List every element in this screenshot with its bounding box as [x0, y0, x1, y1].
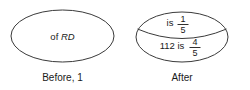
after-top-fraction-denominator: 5 — [180, 25, 185, 35]
before-label-variable: RD — [61, 31, 75, 42]
before-ellipse-label: of RD — [50, 31, 74, 42]
after-caption: After — [171, 72, 193, 83]
after-bottom-text: 112 is — [160, 40, 185, 51]
after-top-fraction-numerator: 1 — [180, 14, 185, 24]
after-group: is 1 5 112 is 4 5 After — [136, 12, 228, 83]
before-group: of RD Before, 1 — [11, 10, 114, 83]
after-bottom-is: is — [177, 40, 184, 51]
after-bottom-quantity: 112 — [160, 40, 175, 51]
after-bottom-region: 112 is 4 5 — [160, 37, 201, 58]
after-top-text: is — [167, 17, 174, 28]
part-whole-diagram: of RD Before, 1 is 1 5 112 is 4 — [0, 0, 250, 90]
after-bottom-fraction-denominator: 5 — [192, 48, 197, 58]
after-top-region: is 1 5 — [167, 14, 189, 35]
diagram-svg: of RD Before, 1 is 1 5 112 is 4 — [0, 0, 250, 90]
after-bottom-fraction-numerator: 4 — [192, 37, 197, 47]
before-caption: Before, 1 — [42, 72, 83, 83]
